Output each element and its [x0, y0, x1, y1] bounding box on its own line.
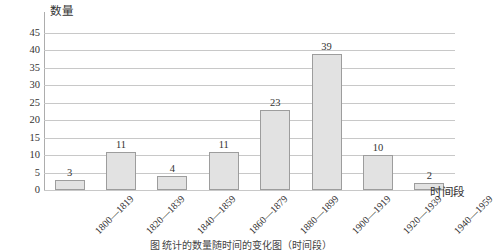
bar-value-label: 3 — [43, 167, 97, 178]
bar[interactable] — [55, 180, 85, 190]
bar-group[interactable]: 10 — [363, 33, 393, 190]
x-axis-tick-label: 1800—1819 — [92, 193, 135, 236]
bar[interactable] — [157, 176, 187, 190]
x-axis-tick-label: 1820—1839 — [144, 193, 187, 236]
y-axis-tick-label: 45 — [6, 28, 40, 38]
y-axis-tick-label: 0 — [6, 185, 40, 195]
bar-group[interactable]: 2 — [414, 33, 444, 190]
bar-group[interactable]: 3 — [55, 33, 85, 190]
x-axis-tick-label: 1920—1939 — [401, 193, 444, 236]
y-axis-title: 数量 — [50, 4, 73, 18]
bar[interactable] — [106, 152, 136, 190]
x-axis-tick-label: 1860—1879 — [246, 193, 289, 236]
bar-group[interactable]: 4 — [157, 33, 187, 190]
plot-area: 3114112339102 — [44, 33, 455, 190]
bar[interactable] — [209, 152, 239, 190]
y-axis-tick-label: 15 — [6, 133, 40, 143]
bar-value-label: 39 — [300, 41, 354, 52]
figure-caption: 图 统计的数量随时间的变化图（时间段） — [0, 240, 482, 252]
y-axis-tick-label: 20 — [6, 115, 40, 125]
bar[interactable] — [260, 110, 290, 190]
bar-value-label: 4 — [145, 163, 199, 174]
y-axis-tick-labels: 454035302520151050 — [0, 0, 40, 249]
bar-group[interactable]: 23 — [260, 33, 290, 190]
y-axis-tick-label: 30 — [6, 80, 40, 90]
y-axis-tick-label: 5 — [6, 168, 40, 178]
x-axis-tick-label: 1840—1859 — [195, 193, 238, 236]
bar[interactable] — [312, 54, 342, 190]
x-axis-tick-label: 1900—1919 — [349, 193, 392, 236]
x-axis-title: 时间段 — [430, 186, 465, 199]
bar-value-label: 23 — [248, 97, 302, 108]
y-axis-tick-label: 10 — [6, 150, 40, 160]
y-axis-tick-label: 40 — [6, 45, 40, 55]
y-axis-tick-label: 35 — [6, 63, 40, 73]
bar[interactable] — [363, 155, 393, 190]
bar-group[interactable]: 11 — [209, 33, 239, 190]
x-axis-tick-labels: 1800—18191820—18391840—18591860—18791880… — [44, 190, 455, 235]
bar-value-label: 2 — [402, 170, 456, 181]
bar-value-label: 10 — [351, 142, 405, 153]
bar-value-label: 11 — [197, 139, 251, 150]
bar-group[interactable]: 11 — [106, 33, 136, 190]
bar-group[interactable]: 39 — [312, 33, 342, 190]
x-axis-tick-label: 1880—1899 — [298, 193, 341, 236]
x-axis-tick-label: 1940—1959 — [452, 193, 495, 236]
y-axis-tick-label: 25 — [6, 98, 40, 108]
bar-value-label: 11 — [94, 139, 148, 150]
